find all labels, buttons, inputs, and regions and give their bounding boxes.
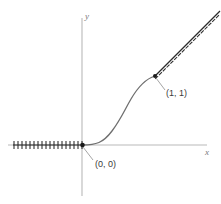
x-axis-label: x [204, 147, 209, 157]
leader-unit-point [156, 78, 165, 90]
label-unit-point: (1, 1) [166, 88, 187, 98]
y-axis-label: y [84, 11, 89, 21]
point-unit-marker [153, 74, 157, 78]
label-origin: (0, 0) [95, 159, 116, 169]
point-origin-marker [80, 143, 85, 148]
left-hatched-ray [13, 141, 83, 149]
s-curve [83, 76, 156, 145]
graph-figure: (0, 0) (1, 1) y x [0, 0, 221, 204]
right-hatched-ray [155, 11, 220, 79]
leader-origin [83, 147, 93, 160]
graph-canvas: (0, 0) (1, 1) y x [0, 0, 221, 204]
